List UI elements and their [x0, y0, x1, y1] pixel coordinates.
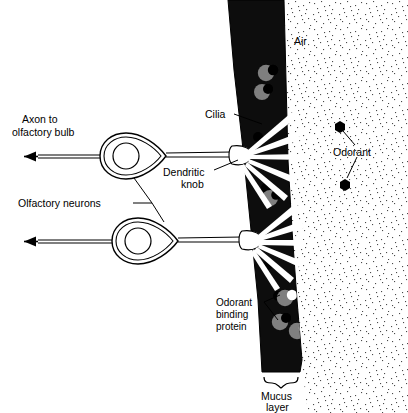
nucleus	[125, 228, 151, 254]
axon-label-line2: olfactory bulb	[12, 126, 75, 138]
obp-label-line1: Odorant	[216, 297, 252, 308]
olfactory-epithelium-figure: Air	[0, 0, 408, 413]
olfactory-neurons-label: Olfactory neurons	[18, 197, 101, 209]
mucus-layer-brace	[264, 377, 298, 388]
air-label: Air	[294, 35, 307, 47]
dendritic-knob-label-group: Dendritic knob	[163, 160, 238, 190]
mucus-layer-brace-group: Mucus layer	[261, 377, 298, 413]
leader-line-lower-neuron	[152, 203, 164, 222]
diagram-canvas: Air	[0, 0, 408, 413]
axon-label-group: Axon to olfactory bulb	[12, 113, 75, 138]
axon-label-line1: Axon to	[22, 113, 58, 125]
odorant-label: Odorant	[333, 146, 371, 158]
nucleus	[113, 143, 139, 169]
obp-label-line3: protein	[216, 321, 247, 332]
dendritic-knob-label-line1: Dendritic	[163, 166, 204, 178]
olfactory-neurons-label-group: Olfactory neurons	[18, 178, 164, 222]
axon-arrowhead	[24, 237, 36, 247]
obp-label-line2: binding	[216, 309, 248, 320]
mucus-layer-label-line2: layer	[266, 401, 289, 413]
leader-line-upper-neuron	[133, 178, 152, 203]
cilia-label: Cilia	[205, 108, 226, 120]
dendritic-knob-label-line2: knob	[181, 178, 204, 190]
axon-arrowhead	[24, 152, 36, 162]
